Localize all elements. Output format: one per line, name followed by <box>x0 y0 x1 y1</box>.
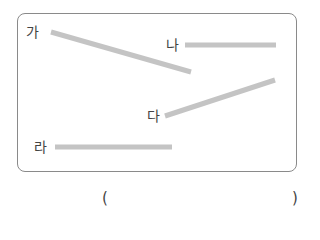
line-segment-2 <box>165 80 275 116</box>
label-na: 나 <box>166 38 179 52</box>
answer-close-paren: ) <box>292 189 298 207</box>
label-da: 다 <box>147 109 160 123</box>
label-ra: 라 <box>34 140 47 154</box>
answer-open-paren: ( <box>102 189 108 207</box>
label-ga: 가 <box>26 25 39 39</box>
